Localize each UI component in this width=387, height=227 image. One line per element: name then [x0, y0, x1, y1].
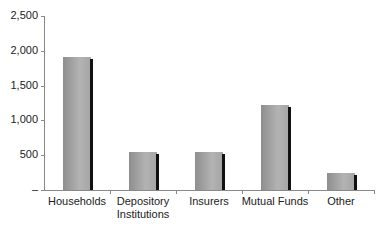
bar-insurers — [195, 152, 223, 190]
y-tick — [41, 16, 44, 17]
bar-shadow — [288, 107, 291, 190]
x-tick — [308, 190, 309, 194]
x-tick — [242, 190, 243, 194]
bar-other — [327, 173, 355, 190]
bar-depository-institutions — [129, 152, 157, 190]
bar-shadow — [90, 59, 93, 190]
x-tick — [110, 190, 111, 194]
y-tick-label: – — [0, 183, 38, 195]
y-tick — [41, 155, 44, 156]
bar-shadow — [156, 154, 159, 190]
y-tick-label: 500 — [0, 148, 38, 160]
y-tick-label: 2,500 — [0, 9, 38, 21]
x-axis — [44, 190, 374, 191]
y-tick — [41, 190, 44, 191]
bar-households — [63, 57, 91, 190]
y-tick-label: 1,500 — [0, 79, 38, 91]
y-tick — [41, 51, 44, 52]
y-tick — [41, 120, 44, 121]
bar-mutual-funds — [261, 105, 289, 190]
y-axis — [44, 16, 45, 190]
bar-chart: –5001,0001,5002,0002,500HouseholdsDeposi… — [0, 0, 387, 227]
y-tick-label: 2,000 — [0, 44, 38, 56]
x-category-label: Other — [301, 195, 381, 208]
bar-shadow — [222, 154, 225, 190]
x-tick — [374, 190, 375, 194]
y-tick — [41, 86, 44, 87]
bar-shadow — [354, 175, 357, 190]
y-tick-label: 1,000 — [0, 113, 38, 125]
x-tick — [176, 190, 177, 194]
